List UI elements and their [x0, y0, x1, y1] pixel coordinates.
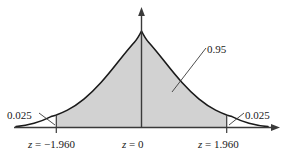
tail-left-probability-label: 0.025 [7, 110, 32, 121]
z-value-zero: 0 [138, 138, 144, 150]
leader-line-tail-left [39, 113, 55, 125]
z-value-label-positive: z = 1.960 [198, 139, 239, 150]
tail-right-probability-label: 0.025 [245, 110, 270, 121]
distribution-plot [0, 0, 283, 160]
central-area-probability-label: 0.95 [207, 44, 226, 55]
z-value-negative: −1.960 [44, 138, 75, 150]
z-value-label-zero: z = 0 [122, 139, 144, 150]
y-axis-arrowhead [138, 7, 145, 16]
x-axis-arrowhead [271, 124, 280, 131]
leader-line-tail-right [229, 113, 244, 125]
equals-sign: = [202, 138, 214, 150]
z-value-label-negative: z = −1.960 [28, 139, 75, 150]
equals-sign: = [32, 138, 44, 150]
leader-line-center-area [172, 48, 206, 92]
z-value-positive: 1.960 [214, 138, 239, 150]
normal-distribution-figure: 0.025 0.025 0.95 z = −1.960 z = 0 z = 1.… [0, 0, 283, 160]
equals-sign: = [126, 138, 138, 150]
